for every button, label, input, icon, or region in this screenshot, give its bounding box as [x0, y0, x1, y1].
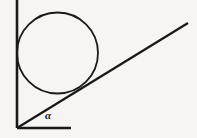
- inclined-tangent-line: [17, 23, 188, 128]
- geometry-figure: [0, 0, 197, 138]
- angle-alpha-label: α: [45, 110, 51, 121]
- diagram-canvas: α: [0, 0, 197, 138]
- tangent-circle: [17, 13, 98, 94]
